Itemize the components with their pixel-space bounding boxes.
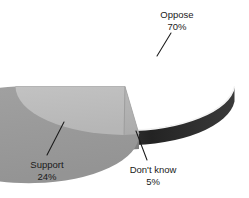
pie-chart-figure: Oppose 70% Support 24% Don't know 5% [0, 0, 249, 198]
label-oppose-name: Oppose [160, 9, 193, 20]
label-oppose: Oppose 70% [160, 9, 193, 32]
pie-chart-svg: Oppose 70% Support 24% Don't know 5% [0, 0, 249, 198]
label-dont-know-name: Don't know [130, 164, 177, 175]
label-support-percent: 24% [37, 171, 57, 182]
label-dont-know: Don't know 5% [130, 164, 177, 187]
label-oppose-percent: 70% [167, 21, 187, 32]
label-dont-know-percent: 5% [146, 176, 160, 187]
label-support-name: Support [30, 159, 64, 170]
leader-line-oppose [157, 33, 171, 56]
